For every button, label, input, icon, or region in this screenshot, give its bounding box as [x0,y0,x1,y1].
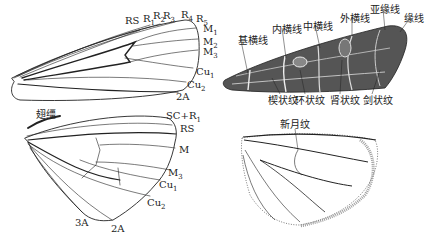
label-subscript: 1 [196,116,200,124]
label-text: Cu [159,179,173,190]
label-text: 肾状纹 [330,95,360,106]
label-text: 新月纹 [280,119,310,130]
label-text: 内横线 [272,24,302,35]
label-text: Cu [196,66,210,77]
label-forewing-pattern-medial-line: 中横线 [303,22,333,32]
label-subscript: 3 [178,173,182,181]
label-text: R [153,10,161,21]
label-hindwing-venation-m: M [179,145,189,155]
label-text: M [203,23,213,34]
label-text: M [168,167,178,178]
label-text: 外横线 [340,13,370,24]
label-subscript: 2 [201,85,205,93]
label-text: 缘线 [404,13,424,24]
label-subscript: 4 [189,15,193,23]
forewing-venation-drawing [12,20,200,101]
label-subscript: 3 [171,16,175,24]
label-forewing-pattern-basal-line: 基横线 [238,36,268,46]
label-forewing-venation-m3: M3 [203,47,218,60]
label-forewing-venation-r3: R3 [163,11,175,24]
label-forewing-pattern-dagger-mark: 剑状纹 [363,96,393,106]
label-forewing-pattern-subterminal-line: 亚缘线 [370,5,400,15]
label-subscript: 1 [173,185,177,193]
label-subscript: 3 [213,52,217,60]
label-text: Cu [187,79,201,90]
label-text: 楔状纹 [268,95,298,106]
label-hindwing-venation-2a: 2A [111,224,125,234]
hindwing-pattern-drawing [241,129,377,226]
label-forewing-pattern-reniform-spot: 肾状纹 [330,96,360,106]
label-hindwing-venation-cu1: Cu1 [159,180,178,193]
label-text: 翅缰 [36,109,56,120]
label-text: RS [180,123,194,134]
label-subscript: 1 [210,72,214,80]
label-text: RS [125,15,139,26]
label-text: 2A [111,223,125,234]
label-hindwing-venation-3a: 3A [75,218,89,228]
label-forewing-venation-rs: RS [125,16,139,26]
label-subscript: 1 [213,29,217,37]
label-forewing-pattern-claviform-spot: 楔状纹 [268,96,298,106]
label-forewing-pattern-postmedial-line: 外横线 [340,14,370,24]
label-forewing-pattern-terminal-line: 缘线 [404,14,424,24]
label-text: R [163,10,171,21]
label-hindwing-venation-frenulum: 翅缰 [36,110,56,120]
label-hindwing-venation-cu2: Cu2 [147,198,166,211]
label-text: R [181,9,189,20]
label-text: 基横线 [238,35,268,46]
label-forewing-pattern-antemedial-line: 内横线 [272,25,302,35]
label-text: 环状纹 [295,95,325,106]
label-text: M [179,144,189,155]
label-forewing-venation-r4: R4 [181,10,193,23]
label-text: 中横线 [303,21,333,32]
label-text: 3A [75,217,89,228]
label-forewing-pattern-orbicular-spot: 环状纹 [295,96,325,106]
label-text: 2A [176,91,190,102]
label-text: R [143,13,151,24]
label-text: SC+R [166,110,196,121]
label-text: 剑状纹 [363,95,393,106]
label-hindwing-pattern-lunule: 新月纹 [280,120,310,130]
label-forewing-venation-2a: 2A [176,92,190,102]
label-text: M [203,46,213,57]
label-text: Cu [147,197,161,208]
label-text: 亚缘线 [370,4,400,15]
label-subscript: 2 [161,203,165,211]
label-hindwing-venation-rs: RS [180,124,194,134]
